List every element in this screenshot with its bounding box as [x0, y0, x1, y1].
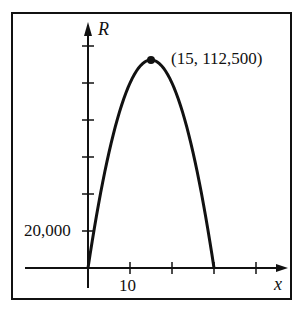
vertex-annotation: (15, 112,500) — [171, 49, 262, 69]
chart-canvas — [0, 0, 298, 311]
vertex-dot — [147, 56, 155, 64]
x-axis-label: x — [274, 274, 282, 295]
y-tick-label: 20,000 — [24, 221, 71, 241]
x-tick-label: 10 — [119, 276, 136, 296]
y-axis-label: R — [98, 19, 109, 40]
parabola-curve — [88, 60, 214, 268]
